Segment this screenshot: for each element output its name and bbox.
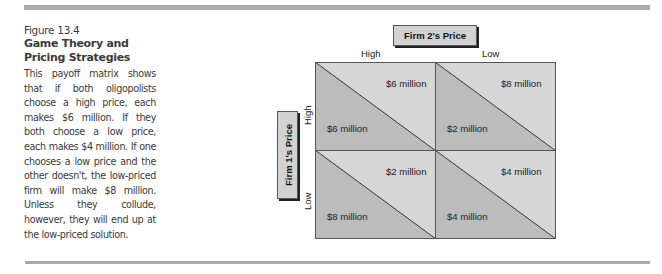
column-label-high: High: [361, 48, 381, 59]
figure-title: Game Theory and Pricing Strategies: [24, 37, 156, 65]
figure-number: Figure 13.4: [24, 24, 156, 37]
row-label-high: High: [302, 105, 313, 125]
top-rule: [24, 5, 650, 10]
row-label-low: Low: [302, 193, 313, 210]
column-player-label: Firm 2's Price: [393, 25, 477, 46]
bottom-rule: [25, 261, 650, 264]
figure-caption: Figure 13.4 Game Theory and Pricing Stra…: [24, 24, 156, 242]
row-player-label: Firm 1's Price: [277, 111, 298, 199]
column-label-low: Low: [482, 48, 499, 59]
figure-description: This payoff matrix shows that if both ol…: [24, 67, 156, 242]
payoff-matrix: $6 million $6 million $8 million $2 mill…: [315, 62, 556, 239]
matrix-divider-horizontal: [315, 150, 556, 151]
row-player-text: Firm 1's Price: [282, 124, 293, 186]
